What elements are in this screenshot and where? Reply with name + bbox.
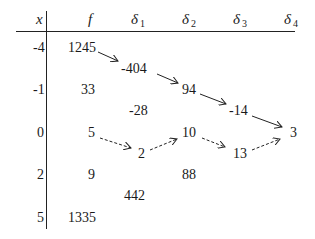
arrow-layer xyxy=(0,0,315,239)
dashed-arrow xyxy=(150,139,177,150)
solid-arrow xyxy=(157,74,178,83)
dashed-arrow xyxy=(252,139,280,150)
solid-arrow xyxy=(252,116,282,127)
dashed-arrow xyxy=(100,138,131,148)
solid-arrow xyxy=(98,52,118,61)
dashed-arrow xyxy=(202,138,225,147)
solid-arrow xyxy=(200,94,226,104)
